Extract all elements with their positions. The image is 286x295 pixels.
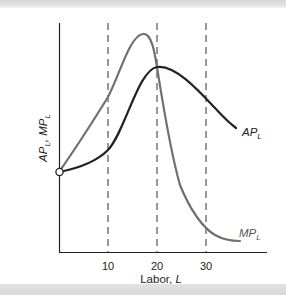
- x-tick-20: 20: [151, 260, 163, 272]
- ap-curve: [59, 67, 236, 172]
- origin-open-circle: [56, 168, 63, 175]
- ap-curve-label: APL: [241, 126, 262, 141]
- reference-lines: [108, 23, 206, 252]
- x-tick-10: 10: [102, 260, 114, 272]
- bottom-border-band: [0, 284, 286, 295]
- x-tick-30: 30: [200, 260, 212, 272]
- product-curves-chart: APL MPL APL, MPL 10 20 30 Labor, L: [0, 0, 286, 295]
- y-axis-label: APL, MPL: [37, 114, 52, 163]
- mp-curve-label: MPL: [239, 227, 261, 242]
- mp-curve: [59, 34, 240, 241]
